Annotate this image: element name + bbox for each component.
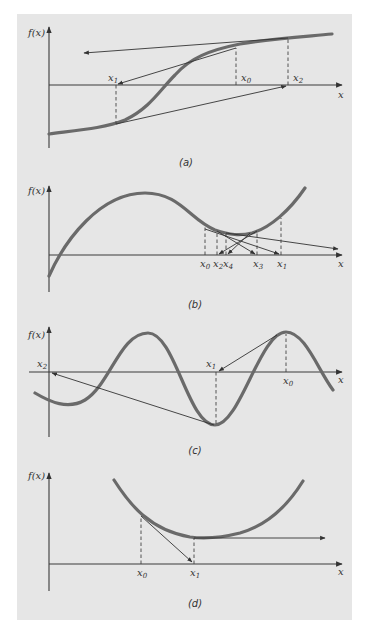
label-x4: x4 [223,258,233,271]
label-x3: x3 [253,258,264,271]
x-axis-label: x [338,89,344,100]
label-x0: x0 [241,72,252,85]
label-x2: x2 [293,72,304,85]
x-axis-label: x [338,258,344,269]
tangent-arrow-x2-leftward [84,38,288,53]
label-x1: x1 [190,567,200,580]
tangent-arrow-x0-to-x1 [118,48,236,84]
label-x1: x1 [277,258,287,271]
function-curve [114,480,303,538]
label-x2: x2 [37,358,48,371]
tangent-arrow-x0-to-x1 [205,229,279,254]
y-axis-label: f(x) [27,329,45,340]
x-axis-label: x [338,566,344,577]
panel-c: f(x) x x2 x1 x0 (c) [27,327,344,456]
newton-raphson-pitfalls-figure: f(x) x x1 x0 x2 (a) f(x) x x0 x2 x4 x [0,0,378,633]
function-curve [49,188,305,276]
y-axis-label: f(x) [27,470,45,481]
label-x0: x0 [283,375,294,388]
x-axis-label: x [338,374,344,385]
caption-b: (b) [188,299,202,310]
tangent-arrow-x1-to-x2 [116,86,286,124]
label-x0: x0 [200,258,211,271]
panel-b: f(x) x x0 x2 x4 x3 x1 (b) [27,185,344,310]
label-x1: x1 [108,72,118,85]
caption-c: (c) [188,445,201,456]
panel-a: f(x) x x1 x0 x2 (a) [27,27,344,168]
y-axis-label: f(x) [27,185,45,196]
caption-d: (d) [188,598,202,609]
caption-a: (a) [179,157,193,168]
label-x0: x0 [137,567,148,580]
label-x1: x1 [206,358,216,371]
y-axis-label: f(x) [27,27,45,38]
tangent-arrow-x0-to-x1 [219,335,277,371]
panel-d: f(x) x x0 x1 (d) [27,470,344,609]
tangent-arrow-x0-to-x1 [141,516,192,562]
function-curve [49,34,332,134]
